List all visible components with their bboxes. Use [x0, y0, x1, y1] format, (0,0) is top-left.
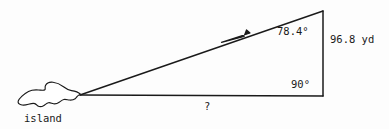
island-blob-shape	[18, 82, 80, 107]
angle-label-top: 78.4°	[277, 26, 309, 37]
right-angle-label: 90°	[291, 79, 310, 90]
hypotenuse-line	[80, 11, 323, 95]
island-triangle-diagram: 78.4° 96.8 yd 90° ? island	[0, 0, 389, 129]
island-label: island	[24, 113, 62, 124]
unknown-side-label: ?	[204, 101, 210, 112]
side-length-label-right: 96.8 yd	[330, 34, 374, 45]
horizontal-leg-line	[80, 95, 323, 96]
diagram-canvas	[0, 0, 389, 129]
